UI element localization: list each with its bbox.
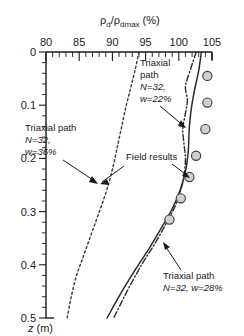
- field-result-marker: [165, 215, 174, 224]
- field-result-marker: [176, 194, 185, 203]
- density-depth-plot: ρd/ρdmax(%) 80859095100105 00.10.20.30.4…: [0, 0, 244, 336]
- field-result-marker: [201, 125, 210, 134]
- annot-22-line-3: w=22%: [140, 93, 172, 104]
- field-result-marker: [191, 151, 200, 160]
- y-tick-label: 0.1: [21, 99, 36, 111]
- annot-28-line-0: Triaxial path: [163, 270, 214, 281]
- field-result-marker: [203, 98, 212, 107]
- y-axis-title: z(m): [27, 322, 53, 334]
- y-tick-label: 0: [30, 46, 36, 58]
- x-tick-label: 90: [106, 36, 118, 48]
- y-tick-label: 0.3: [21, 206, 36, 218]
- chart-figure: ρd/ρdmax(%) 80859095100105 00.10.20.30.4…: [0, 0, 244, 336]
- x-tick-label: 105: [203, 36, 221, 48]
- x-tick-label: 80: [40, 36, 52, 48]
- field-result-marker: [203, 71, 212, 80]
- percent-unit: (%): [143, 14, 160, 26]
- annot-28-line-1: N=32, w=28%: [163, 282, 223, 293]
- y-tick-label: 0.4: [21, 259, 36, 271]
- annot-36-line-2: w=36%: [25, 146, 57, 157]
- rho-sub-2: dmax: [120, 20, 140, 29]
- annot-22-line-0: Triaxial: [140, 57, 170, 68]
- annot-22-line-2: N=32,: [140, 81, 166, 92]
- x-tick-label: 85: [73, 36, 85, 48]
- x-tick-label: 100: [170, 36, 188, 48]
- annot-22-line-1: path: [140, 69, 159, 80]
- x-tick-label: 95: [139, 36, 151, 48]
- annot-36-line-0: Triaxial path: [25, 122, 76, 133]
- y-axis-symbol: z: [27, 322, 34, 334]
- annot-field-label: Field results: [126, 151, 177, 162]
- y-axis-unit: (m): [37, 322, 54, 334]
- annot-36-line-1: N=32,: [25, 134, 51, 145]
